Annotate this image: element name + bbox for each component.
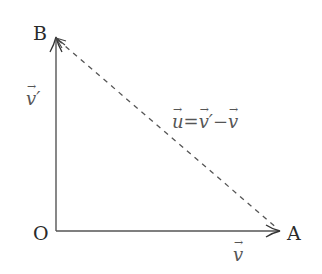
vector-v-label: v [233,246,243,264]
v-symbol-eq: v [228,113,238,131]
vector-u-equation-label: u=v′−v [172,113,238,131]
vector-u-dashed-line [58,40,278,229]
point-b-label: B [33,24,47,43]
u-symbol: u [172,113,184,131]
point-a-label: A [287,224,301,243]
v-prime-symbol: v [26,90,36,108]
equals-sign: = [184,111,199,132]
vector-diagram: B O A v′ v u=v′−v [0,0,322,274]
minus-sign: − [213,111,228,132]
point-o-label: O [33,224,49,243]
v-symbol: v [233,246,243,264]
v-prime-symbol-eq: v [199,113,209,131]
vector-v-prime-label: v′ [26,90,40,108]
prime-mark: ′ [36,88,40,109]
